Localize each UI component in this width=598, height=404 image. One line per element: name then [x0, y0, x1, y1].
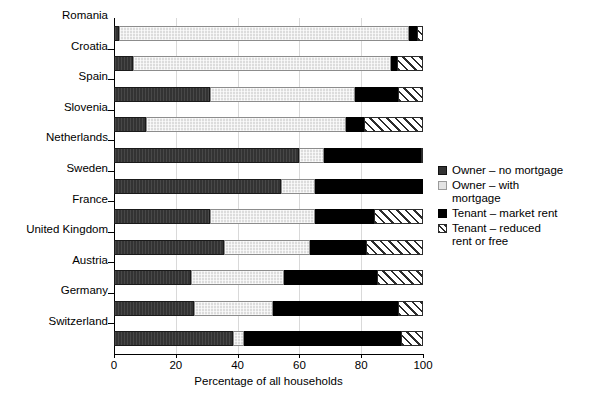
- legend-label: Owner – no mortgage: [452, 164, 593, 177]
- bar-segment-owner-no: [114, 209, 210, 224]
- bar-segment-tenant-reduced: [374, 209, 423, 224]
- x-tick-label: 100: [403, 359, 443, 371]
- bar-segment-owner-with: [194, 301, 273, 316]
- bar-row: [114, 209, 423, 224]
- bar-segment-owner-no: [114, 179, 281, 194]
- x-tick-label: 80: [341, 359, 381, 371]
- bar-row: [114, 331, 423, 346]
- plot-area: [114, 18, 423, 354]
- category-label: France: [2, 193, 108, 205]
- bar-segment-owner-with: [224, 240, 311, 255]
- x-tick-label: 40: [218, 359, 258, 371]
- legend-label: Owner – with mortgage: [452, 179, 593, 205]
- category-label: Spain: [2, 70, 108, 82]
- bar-segment-owner-with: [210, 87, 355, 102]
- category-label: Romania: [2, 9, 108, 21]
- legend: Owner – no mortgageOwner – with mortgage…: [438, 164, 593, 250]
- bar-segment-tenant-market: [244, 331, 402, 346]
- bar-row: [114, 117, 423, 132]
- x-tick-label: 20: [156, 359, 196, 371]
- bar-segment-owner-with: [210, 209, 315, 224]
- x-tick: [238, 354, 239, 358]
- bar-row: [114, 301, 423, 316]
- bar-segment-tenant-reduced: [377, 270, 423, 285]
- x-tick: [114, 354, 115, 358]
- bar-segment-tenant-market: [346, 117, 365, 132]
- legend-swatch-tenant-market: [438, 209, 447, 218]
- category-label: Slovenia: [2, 101, 108, 113]
- category-label: United Kingdom: [2, 223, 108, 235]
- bar-segment-owner-no: [114, 117, 146, 132]
- bar-segment-tenant-reduced: [364, 117, 423, 132]
- bar-segment-tenant-reduced: [397, 56, 423, 71]
- legend-item: Owner – no mortgage: [438, 164, 593, 177]
- category-label: Austria: [2, 254, 108, 266]
- bar-row: [114, 240, 423, 255]
- bar-segment-owner-no: [114, 331, 233, 346]
- bar-segment-tenant-reduced: [417, 26, 423, 41]
- bar-segment-owner-no: [114, 270, 191, 285]
- bar-segment-owner-no: [114, 87, 210, 102]
- category-label: Netherlands: [2, 131, 108, 143]
- legend-label: Tenant – market rent: [452, 207, 593, 220]
- legend-item: Tenant – reduced rent or free: [438, 222, 593, 248]
- bar-segment-tenant-market: [324, 148, 421, 163]
- x-tick-label: 0: [94, 359, 134, 371]
- legend-swatch-owner-with: [438, 181, 447, 190]
- bar-row: [114, 179, 423, 194]
- x-axis-line: [114, 354, 424, 355]
- bar-segment-tenant-reduced: [366, 240, 423, 255]
- category-label: Sweden: [2, 162, 108, 174]
- bar-segment-owner-with: [146, 117, 345, 132]
- category-label: Switzerland: [2, 315, 108, 327]
- bar-row: [114, 270, 423, 285]
- y-axis-category-labels: RomaniaCroatiaSpainSloveniaNetherlandsSw…: [0, 0, 108, 336]
- bar-segment-tenant-market: [409, 26, 417, 41]
- bar-segment-owner-no: [114, 148, 299, 163]
- bar-segment-owner-with: [119, 26, 409, 41]
- chart-figure: RomaniaCroatiaSpainSloveniaNetherlandsSw…: [0, 0, 598, 404]
- bar-segment-owner-no: [114, 56, 133, 71]
- bar-segment-owner-with: [299, 148, 324, 163]
- bar-row: [114, 56, 423, 71]
- x-tick-label: 60: [279, 359, 319, 371]
- x-tick: [176, 354, 177, 358]
- bar-row: [114, 148, 423, 163]
- bar-segment-tenant-market: [310, 240, 366, 255]
- bar-segment-owner-with: [281, 179, 315, 194]
- bar-segment-tenant-market: [284, 270, 377, 285]
- bar-segment-tenant-reduced: [398, 301, 423, 316]
- x-tick: [423, 354, 424, 358]
- category-label: Germany: [2, 284, 108, 296]
- bar-segment-owner-no: [114, 301, 194, 316]
- category-label: Croatia: [2, 40, 108, 52]
- bar-segment-owner-with: [191, 270, 284, 285]
- legend-item: Owner – with mortgage: [438, 179, 593, 205]
- x-tick: [299, 354, 300, 358]
- bar-segment-owner-with: [233, 331, 244, 346]
- bar-row: [114, 87, 423, 102]
- bar-row: [114, 26, 423, 41]
- bar-segment-tenant-market: [355, 87, 398, 102]
- bar-segment-tenant-market: [273, 301, 398, 316]
- bar-segment-owner-no: [114, 240, 224, 255]
- bar-segment-tenant-market: [315, 209, 374, 224]
- legend-label: Tenant – reduced rent or free: [452, 222, 593, 248]
- bar-segment-tenant-reduced: [421, 148, 423, 163]
- x-tick: [361, 354, 362, 358]
- legend-item: Tenant – market rent: [438, 207, 593, 220]
- legend-swatch-owner-no: [438, 166, 447, 175]
- x-axis-title: Percentage of all households: [114, 375, 423, 387]
- bar-segment-owner-with: [133, 56, 391, 71]
- bar-segment-tenant-market: [315, 179, 423, 194]
- legend-swatch-tenant-reduced: [438, 224, 447, 233]
- bar-segment-tenant-reduced: [398, 87, 423, 102]
- bar-segment-tenant-reduced: [401, 331, 423, 346]
